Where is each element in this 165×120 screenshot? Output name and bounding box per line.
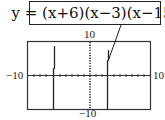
graph-plot <box>0 0 165 120</box>
curve-branch-right <box>108 50 109 109</box>
curve-branch-left <box>54 46 55 109</box>
equation-leader-line <box>109 25 122 60</box>
